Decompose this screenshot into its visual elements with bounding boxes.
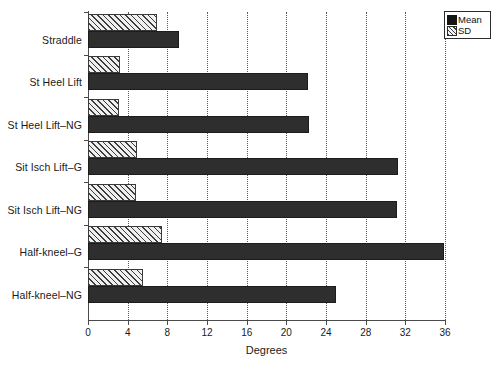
plot-area — [88, 12, 445, 320]
bar-sd-straddle — [88, 14, 157, 31]
x-tick-label-20: 20 — [281, 327, 292, 338]
bar-mean-straddle — [88, 31, 179, 48]
bar-mean-st-heel-lift-ng — [88, 116, 309, 133]
category-label-sit-isch-lift-g: Sit Isch Lift–G — [2, 161, 82, 173]
x-tick-label-32: 32 — [400, 327, 411, 338]
legend-label-sd: SD — [458, 26, 471, 36]
x-tick-mark-28 — [366, 320, 367, 325]
x-tick-mark-0 — [88, 320, 89, 325]
legend-swatch-mean-icon — [447, 15, 457, 25]
x-tick-label-8: 8 — [165, 327, 171, 338]
legend-entry-sd: SD — [447, 25, 488, 36]
x-axis-line — [88, 320, 446, 321]
x-tick-mark-16 — [247, 320, 248, 325]
bar-sd-st-heel-lift-ng — [88, 99, 119, 116]
bar-mean-sit-isch-lift-ng — [88, 201, 397, 218]
chart-legend: Mean SD — [444, 11, 491, 39]
x-tick-label-24: 24 — [320, 327, 331, 338]
x-tick-mark-32 — [405, 320, 406, 325]
x-tick-mark-4 — [128, 320, 129, 325]
bar-sd-half-kneel-g — [88, 226, 162, 243]
category-label-half-kneel-g: Half-kneel–G — [2, 246, 82, 258]
x-tick-label-16: 16 — [241, 327, 252, 338]
x-tick-label-4: 4 — [125, 327, 131, 338]
bar-mean-half-kneel-ng — [88, 286, 336, 303]
x-tick-mark-24 — [326, 320, 327, 325]
x-tick-mark-36 — [445, 320, 446, 325]
legend-swatch-sd-icon — [447, 26, 457, 36]
category-label-straddle: Straddle — [2, 34, 82, 46]
category-label-sit-isch-lift-ng: Sit Isch Lift–NG — [2, 204, 82, 216]
category-label-half-kneel-ng: Half-kneel–NG — [2, 289, 82, 301]
gridline-36 — [445, 12, 446, 320]
legend-label-mean: Mean — [458, 15, 482, 25]
bar-sd-sit-isch-lift-g — [88, 141, 137, 158]
x-tick-mark-8 — [167, 320, 168, 325]
bar-sd-half-kneel-ng — [88, 269, 143, 286]
x-axis-title: Degrees — [88, 344, 445, 356]
bar-mean-half-kneel-g — [88, 243, 444, 260]
bar-mean-sit-isch-lift-g — [88, 158, 398, 175]
x-tick-mark-12 — [207, 320, 208, 325]
bar-mean-st-heel-lift — [88, 73, 308, 90]
category-label-st-heel-lift-ng: St Heel Lift–NG — [2, 119, 82, 131]
x-tick-label-0: 0 — [85, 327, 91, 338]
bar-chart: Straddle St Heel Lift St Heel Lift–NG Si… — [0, 0, 504, 373]
bar-sd-sit-isch-lift-ng — [88, 184, 136, 201]
category-labels: Straddle St Heel Lift St Heel Lift–NG Si… — [0, 0, 82, 373]
category-label-st-heel-lift: St Heel Lift — [2, 76, 82, 88]
x-tick-label-28: 28 — [360, 327, 371, 338]
legend-entry-mean: Mean — [447, 14, 488, 25]
x-tick-label-36: 36 — [439, 327, 450, 338]
x-tick-mark-20 — [286, 320, 287, 325]
bar-sd-st-heel-lift — [88, 56, 120, 73]
x-tick-label-12: 12 — [201, 327, 212, 338]
gridline-32 — [405, 12, 406, 320]
